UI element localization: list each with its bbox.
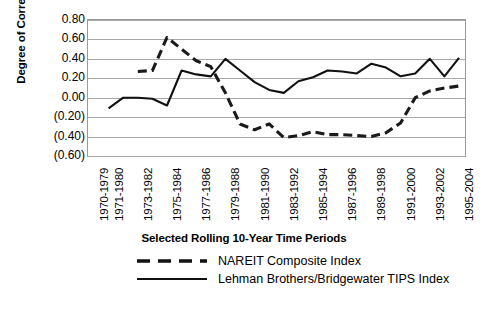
legend-item-nareit: NAREIT Composite Index <box>135 252 361 270</box>
x-tick-label: 1985-1994 <box>317 159 330 221</box>
series-line-tips <box>109 58 459 109</box>
y-tick-label: 0.40 <box>38 52 85 64</box>
x-tick-label: 1970-1979 <box>98 159 111 221</box>
plot-area <box>87 19 466 157</box>
y-tick-label: 0.80 <box>38 13 85 25</box>
y-tick-label: 0.60 <box>38 32 85 44</box>
x-tick-label: 1977-1986 <box>200 159 213 221</box>
x-tick-label: 1987-1996 <box>346 159 359 221</box>
x-tick-label: 1979-1988 <box>229 159 242 221</box>
legend-swatch-solid-icon <box>135 272 209 286</box>
x-tick-label: 1989-1998 <box>375 159 388 221</box>
chart-figure: Degree of Correlation 0.800.600.400.200.… <box>0 0 488 312</box>
x-tick-label: 1991-2000 <box>405 159 418 221</box>
x-axis-tick-labels: 1970-19791971-19801973-19821975-19841977… <box>87 157 466 223</box>
y-axis-title: Degree of Correlation <box>15 0 31 101</box>
x-tick-label: 1975-1984 <box>171 159 184 221</box>
y-tick-label: (0.40) <box>38 130 85 142</box>
x-axis-title: Selected Rolling 10-Year Time Periods <box>0 232 488 244</box>
x-tick-label: 1971-1980 <box>113 159 126 221</box>
y-tick-label: 0.20 <box>38 71 85 83</box>
y-tick-label: 0.00 <box>38 91 85 103</box>
legend-label-nareit: NAREIT Composite Index <box>218 254 361 268</box>
y-tick-label: (0.20) <box>38 110 85 122</box>
x-tick-label: 1995-2004 <box>463 159 476 221</box>
legend-item-tips: Lehman Brothers/Bridgewater TIPS Index <box>135 270 449 288</box>
x-tick-label: 1981-1990 <box>259 159 272 221</box>
x-tick-label: 1983-1992 <box>288 159 301 221</box>
x-tick-label: 1973-1982 <box>142 159 155 221</box>
y-tick-label: (0.60) <box>38 149 85 161</box>
x-tick-label: 1993-2002 <box>434 159 447 221</box>
y-axis-tick-labels: 0.800.600.400.200.00(0.20)(0.40)(0.60) <box>38 0 85 170</box>
legend-label-tips: Lehman Brothers/Bridgewater TIPS Index <box>218 272 449 286</box>
legend-swatch-dashed-icon <box>135 254 209 268</box>
series-line-nareit <box>138 37 459 137</box>
data-series-layer <box>88 20 465 156</box>
